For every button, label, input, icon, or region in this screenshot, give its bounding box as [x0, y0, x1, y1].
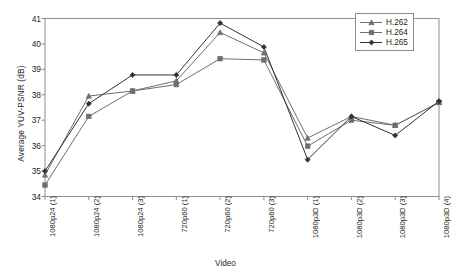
- marker-triangle: [368, 20, 373, 25]
- legend-item: H.265: [360, 37, 408, 47]
- x-tick-label: 1080p24 (3): [136, 196, 145, 237]
- x-tick-label: 1080p3D (4): [442, 196, 451, 238]
- x-tick-label: 1080p3D (1): [311, 196, 320, 238]
- legend-label: H.264: [386, 28, 408, 37]
- chart-legend: H.262H.264H.265: [355, 13, 414, 51]
- marker-diamond: [368, 40, 373, 45]
- legend-label: H.265: [386, 38, 408, 47]
- legend-label: H.262: [386, 18, 408, 27]
- x-tick-label: 1080p24 (1): [48, 196, 57, 237]
- chart-figure: 3435363738394041 1080p24 (1)1080p24 (2)1…: [0, 0, 451, 278]
- x-tick-label: 1080p3D (3): [398, 196, 407, 238]
- x-tick-label: 720p60 (2): [223, 196, 232, 233]
- y-axis-title: Average YUV-PSNR (dB): [17, 39, 26, 189]
- legend-line-swatch: [360, 27, 382, 37]
- legend-item: H.262: [360, 17, 408, 27]
- x-tick-label: 1080p24 (2): [92, 196, 101, 237]
- x-tick-label: 1080p3D (2): [355, 196, 364, 238]
- marker-square: [369, 30, 374, 35]
- legend-marker-diamond: [366, 37, 377, 48]
- legend-line-swatch: [360, 17, 382, 27]
- x-axis-title: Video: [0, 259, 451, 268]
- legend-line-swatch: [360, 37, 382, 47]
- x-tick-label: 720p60 (3): [267, 196, 276, 233]
- legend-item: H.264: [360, 27, 408, 37]
- x-tick-label: 720p60 (1): [180, 196, 189, 233]
